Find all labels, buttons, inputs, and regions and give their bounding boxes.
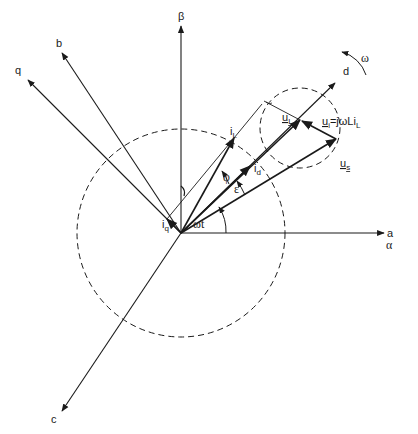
omega-t-arc (219, 207, 226, 233)
c-axis-label: c (51, 413, 57, 425)
us-label: us (340, 157, 350, 172)
uL-label: uL (282, 111, 293, 126)
iq-vector (167, 219, 181, 233)
omega-label: ω (361, 51, 369, 65)
us-vector (181, 139, 336, 233)
id-label: id (254, 162, 261, 177)
alpha-axis-label: α (386, 238, 393, 252)
iL-label: iL (230, 125, 237, 140)
phasor-diagram: a α β b q c d ω iL id iq uL us ui=jωLiL … (0, 0, 418, 434)
iL-to-circle-line (234, 104, 262, 138)
ui-equation-label: ui=jωLiL (322, 115, 361, 130)
iL-vector (181, 138, 234, 233)
d-axis-label: d (343, 65, 349, 77)
q-axis (28, 80, 181, 233)
phi-label: φ (223, 170, 230, 184)
beta-axis-label: β (178, 10, 184, 22)
diagram-canvas: a α β b q c d ω iL id iq uL us ui=jωLiL … (0, 0, 418, 434)
q-axis-label: q (15, 64, 21, 76)
omega-t-label: ωt (193, 217, 205, 231)
epsilon-label: ε (234, 182, 239, 196)
c-axis (62, 233, 181, 411)
b-axis (62, 53, 181, 233)
b-axis-label: b (56, 37, 62, 49)
